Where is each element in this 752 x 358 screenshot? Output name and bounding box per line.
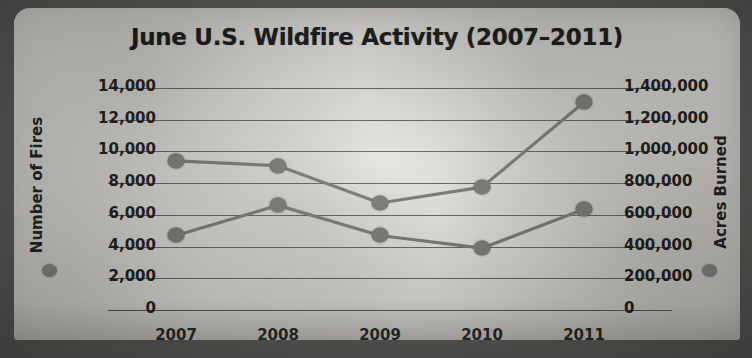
x-axis-tick: 2011 xyxy=(563,326,605,340)
data-point xyxy=(576,95,593,110)
chart-title: June U.S. Wildfire Activity (2007–2011) xyxy=(14,24,740,50)
data-point xyxy=(270,158,287,173)
plot-area: 02,0004,0006,0008,00010,00012,00014,000 … xyxy=(166,74,614,318)
scanned-page: June U.S. Wildfire Activity (2007–2011) … xyxy=(0,0,752,358)
series-line xyxy=(176,102,584,203)
paper-sheet: June U.S. Wildfire Activity (2007–2011) … xyxy=(14,8,740,340)
data-point xyxy=(168,228,185,243)
chart: June U.S. Wildfire Activity (2007–2011) … xyxy=(14,8,740,340)
data-point xyxy=(576,202,593,217)
x-axis-tick: 2007 xyxy=(155,326,197,340)
data-point xyxy=(474,241,491,256)
series-lines xyxy=(108,74,672,318)
legend-dot-number-of-fires xyxy=(42,264,57,277)
data-point xyxy=(270,198,287,213)
x-axis-tick: 2009 xyxy=(359,326,401,340)
data-point xyxy=(372,228,389,243)
data-point xyxy=(168,153,185,168)
left-axis-title: Number of Fires xyxy=(28,100,46,270)
x-axis-tick: 2008 xyxy=(257,326,299,340)
data-point xyxy=(372,195,389,210)
x-axis-tick: 2010 xyxy=(461,326,503,340)
data-point xyxy=(474,180,491,195)
